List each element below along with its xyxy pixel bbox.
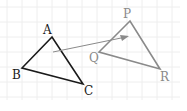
label-q: Q <box>89 51 99 65</box>
label-r: R <box>160 70 170 84</box>
diagram-canvas: A B C P Q R <box>0 0 187 111</box>
triangle-pqr <box>99 21 160 69</box>
label-b: B <box>12 68 21 82</box>
label-a: A <box>42 23 52 37</box>
arrowhead-icon <box>120 35 129 41</box>
translation-arrow <box>53 35 129 52</box>
label-c: C <box>84 84 93 98</box>
translation-diagram: A B C P Q R <box>0 0 187 111</box>
label-p: P <box>123 7 131 21</box>
